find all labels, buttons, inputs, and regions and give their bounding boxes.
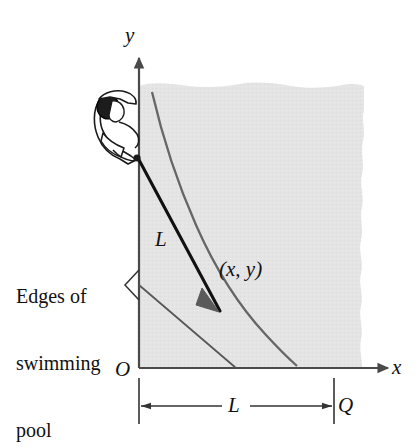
pool-caption: Edges of swimming pool bbox=[16, 240, 100, 447]
pool-caption-line-1: Edges of bbox=[16, 285, 100, 307]
dimension-length-label: L bbox=[228, 394, 240, 418]
pool-caption-line-3: pool bbox=[16, 419, 100, 441]
point-q-label: Q bbox=[338, 394, 353, 418]
person-pulling-rope-icon bbox=[94, 91, 140, 164]
pool-caption-line-2: swimming bbox=[16, 352, 100, 374]
origin-label: O bbox=[115, 358, 130, 382]
y-axis-label: y bbox=[125, 24, 134, 48]
rope-length-label: L bbox=[155, 228, 167, 252]
point-xy-label: (x, y) bbox=[219, 258, 262, 282]
tractrix-figure: y x O Q L L (x, y) Edges of swimming poo… bbox=[0, 0, 418, 447]
leader-bracket-icon bbox=[125, 270, 139, 300]
x-axis-label: x bbox=[392, 356, 401, 380]
